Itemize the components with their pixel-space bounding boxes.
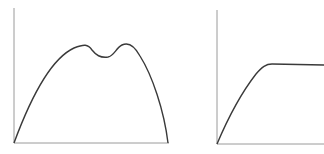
left-diagram [14, 8, 169, 143]
saturation-curve [217, 64, 324, 144]
bimodal-curve [14, 44, 168, 143]
right-diagram [217, 10, 324, 144]
diagram-canvas [0, 0, 324, 154]
